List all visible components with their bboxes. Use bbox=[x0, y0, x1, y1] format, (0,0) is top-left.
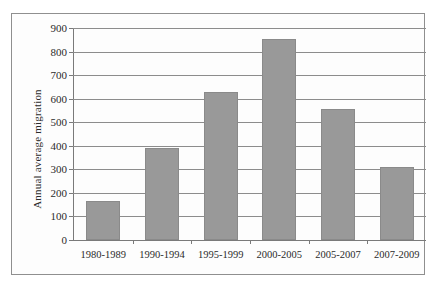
bar-slot bbox=[133, 28, 192, 240]
y-tick-label: 400 bbox=[51, 140, 68, 151]
bar-slot bbox=[250, 28, 309, 240]
y-axis-title: Annual average migration bbox=[30, 64, 44, 234]
y-tick-mark bbox=[69, 99, 73, 100]
x-tick-mark bbox=[191, 240, 192, 244]
y-tick-label: 0 bbox=[62, 235, 68, 246]
x-tick-mark bbox=[309, 240, 310, 244]
chart-figure-frame: Annual average migration 010020030040050… bbox=[11, 13, 425, 275]
y-tick-mark bbox=[69, 146, 73, 147]
bar[interactable] bbox=[321, 109, 355, 240]
y-tick-mark bbox=[69, 75, 73, 76]
x-tick-mark bbox=[367, 240, 368, 244]
bar[interactable] bbox=[86, 201, 120, 240]
bar-slot bbox=[191, 28, 250, 240]
y-tick-mark bbox=[69, 216, 73, 217]
bar[interactable] bbox=[145, 148, 179, 240]
y-tick-label: 300 bbox=[51, 164, 68, 175]
y-tick-label: 100 bbox=[51, 211, 68, 222]
y-tick-mark bbox=[69, 122, 73, 123]
x-tick-label: 1980-1989 bbox=[81, 250, 127, 261]
x-tick-label: 1990-1994 bbox=[139, 250, 185, 261]
y-tick-label: 200 bbox=[51, 187, 68, 198]
plot-area: 0100200300400500600700800900 1980-198919… bbox=[73, 28, 426, 240]
y-tick-label: 500 bbox=[51, 117, 68, 128]
x-tick-label: 1995-1999 bbox=[198, 250, 244, 261]
y-tick-label: 700 bbox=[51, 70, 68, 81]
bar[interactable] bbox=[380, 167, 414, 240]
y-axis-title-label: Annual average migration bbox=[31, 89, 43, 209]
bar-slot bbox=[74, 28, 133, 240]
x-tick-label: 2005-2007 bbox=[315, 250, 361, 261]
bar[interactable] bbox=[262, 39, 296, 240]
y-tick-mark bbox=[69, 240, 73, 241]
bar[interactable] bbox=[204, 92, 238, 240]
x-tick-label: 2007-2009 bbox=[374, 250, 420, 261]
x-tick-mark bbox=[250, 240, 251, 244]
bar-slot bbox=[367, 28, 426, 240]
y-tick-mark bbox=[69, 28, 73, 29]
y-tick-mark bbox=[69, 52, 73, 53]
y-tick-mark bbox=[69, 193, 73, 194]
y-tick-label: 600 bbox=[51, 93, 68, 104]
y-tick-label: 800 bbox=[51, 46, 68, 57]
bars-layer bbox=[74, 28, 426, 240]
y-tick-label: 900 bbox=[51, 23, 68, 34]
x-tick-label: 2000-2005 bbox=[257, 250, 303, 261]
y-tick-mark bbox=[69, 169, 73, 170]
bar-slot bbox=[309, 28, 368, 240]
x-tick-mark bbox=[133, 240, 134, 244]
